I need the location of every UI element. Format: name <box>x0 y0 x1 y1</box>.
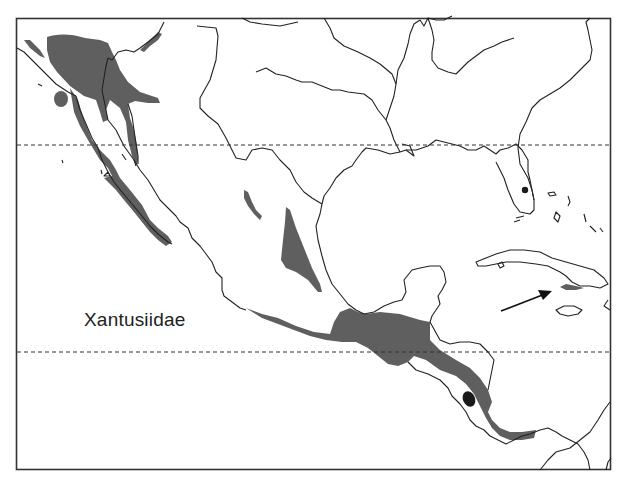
map-title: Xantusiidae <box>84 309 186 331</box>
distribution-map <box>0 0 623 481</box>
